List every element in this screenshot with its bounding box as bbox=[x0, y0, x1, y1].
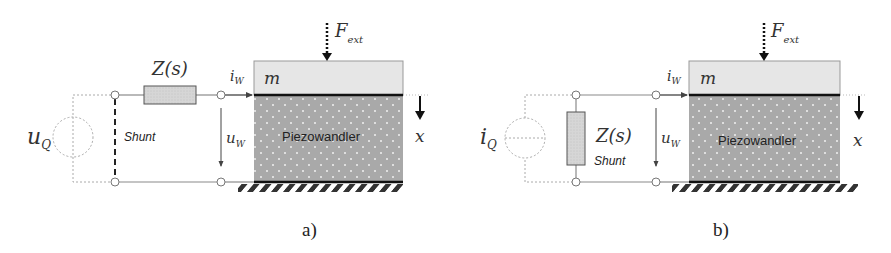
panel-a: uQ Shunt Z(s) iW uW m Piezowandler bbox=[27, 20, 428, 241]
force-label: Fext bbox=[334, 20, 364, 45]
piezo-label: Piezowandler bbox=[718, 133, 797, 148]
voltage-label: uW bbox=[661, 129, 681, 149]
piezo-label: Piezowandler bbox=[282, 129, 361, 144]
piezo-shunt-diagram: uQ Shunt Z(s) iW uW m Piezowandler bbox=[0, 0, 891, 253]
mass-label: m bbox=[700, 68, 716, 88]
voltage-source-icon bbox=[53, 95, 115, 182]
source-label: uQ bbox=[27, 124, 51, 152]
mass-label: m bbox=[264, 68, 280, 88]
current-source-icon bbox=[505, 95, 576, 182]
terminal bbox=[111, 91, 119, 99]
shunt-label: Shunt bbox=[594, 154, 626, 168]
ground-hatch bbox=[672, 184, 858, 192]
displacement-label: x bbox=[415, 126, 425, 146]
impedance-box bbox=[567, 112, 585, 165]
terminal bbox=[652, 178, 660, 186]
terminal bbox=[217, 91, 225, 99]
terminal bbox=[217, 178, 225, 186]
impedance-box bbox=[144, 86, 196, 104]
caption: b) bbox=[713, 219, 729, 241]
terminal bbox=[652, 91, 660, 99]
terminal bbox=[111, 178, 119, 186]
panel-b: iQ Z(s) Shunt iW uW m Piezowandler Fex bbox=[480, 20, 866, 241]
current-label: iW bbox=[230, 68, 244, 86]
voltage-label: uW bbox=[226, 129, 246, 149]
displacement-label: x bbox=[853, 130, 863, 150]
terminal bbox=[572, 91, 580, 99]
impedance-label: Z(s) bbox=[595, 125, 632, 146]
force-label: Fext bbox=[770, 20, 800, 45]
shunt-label: Shunt bbox=[124, 130, 156, 144]
caption: a) bbox=[302, 219, 317, 241]
impedance-label: Z(s) bbox=[151, 58, 188, 79]
source-label: iQ bbox=[480, 124, 497, 152]
terminal bbox=[572, 178, 580, 186]
ground-hatch bbox=[238, 184, 403, 192]
current-label: iW bbox=[667, 68, 681, 86]
